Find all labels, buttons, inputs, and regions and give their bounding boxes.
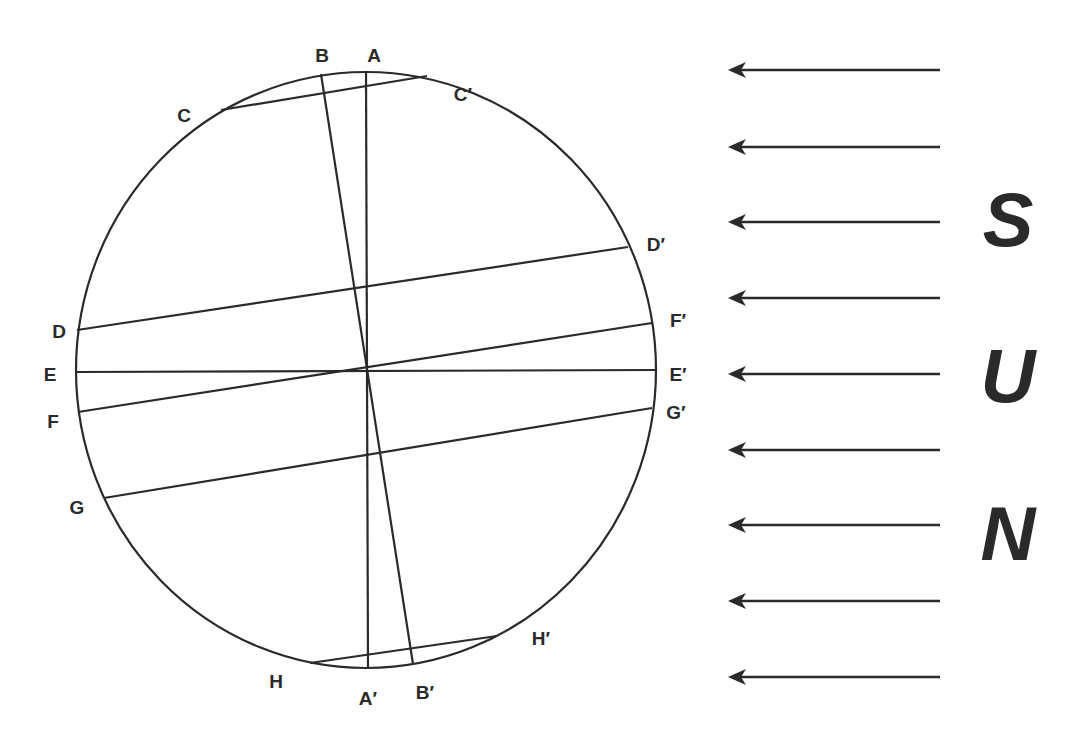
point-label: C′	[454, 84, 473, 105]
arrow-left-icon	[728, 593, 940, 609]
point-label: A′	[359, 688, 378, 709]
arrow-left-icon	[728, 669, 940, 685]
arrow-left-icon	[728, 517, 940, 533]
point-label: C	[177, 105, 191, 126]
chord-d	[77, 247, 628, 330]
point-label: H	[269, 671, 283, 692]
arrow-left-icon	[728, 62, 940, 78]
arrow-left-icon	[728, 214, 940, 230]
point-label: H′	[532, 628, 551, 649]
point-label: D	[52, 321, 66, 342]
chord-c	[221, 76, 427, 110]
sun-rays	[728, 62, 940, 685]
arrow-left-icon	[728, 442, 940, 458]
chord-e	[75, 370, 656, 372]
arrow-left-icon	[728, 139, 940, 155]
sun-label: SUN	[981, 177, 1038, 576]
arrow-left-icon	[728, 290, 940, 306]
point-label: B	[315, 45, 329, 66]
point-label: F′	[670, 310, 687, 331]
point-label: A	[367, 45, 381, 66]
point-label: F	[47, 411, 59, 432]
sun-letter: U	[981, 333, 1038, 418]
chord-g	[104, 408, 652, 498]
sun-letter: N	[981, 491, 1038, 576]
point-label: G′	[666, 402, 686, 423]
point-label: E	[44, 364, 57, 385]
point-label: G	[70, 497, 85, 518]
earth-sun-diagram: ABCC′DD′EE′FF′GG′HH′A′B′ SUN	[0, 0, 1078, 738]
point-label: E′	[669, 364, 687, 385]
chord-f	[78, 323, 652, 412]
point-label: D′	[647, 234, 666, 255]
arrow-left-icon	[728, 366, 940, 382]
chord-lines	[75, 71, 656, 668]
sun-letter: S	[983, 177, 1034, 262]
point-label: B′	[416, 682, 435, 703]
